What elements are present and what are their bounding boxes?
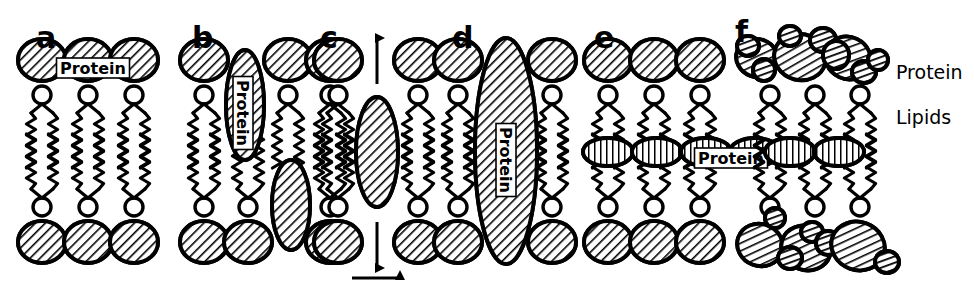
lipid-neck <box>407 104 429 113</box>
panel-d-protein-label-inner: Protein <box>496 124 516 197</box>
lipid-head-icon <box>806 86 824 104</box>
protein-cluster-blob-bottom-fill <box>875 251 899 273</box>
protein-head-bottom <box>630 221 678 263</box>
protein-head-bottom-fill <box>18 221 66 263</box>
protein-head-bottom-fill <box>528 221 576 263</box>
lipid-head-icon <box>599 198 617 216</box>
protein-head-bottom <box>434 221 482 263</box>
lipid-neck <box>804 104 826 113</box>
protein-body-midlayer-fill <box>632 138 682 166</box>
panel-a-protein-label: Protein <box>57 58 130 78</box>
protein-head-bottom-fill <box>584 221 632 263</box>
lipid-neck <box>447 104 469 113</box>
protein-head-top <box>676 39 724 81</box>
lipid-molecule <box>536 86 567 168</box>
lipid-molecule <box>72 86 103 168</box>
protein-cluster-blob-top <box>753 59 775 81</box>
lipid-molecule <box>118 134 149 216</box>
protein-cluster-blob-top-fill <box>779 26 801 46</box>
protein-head-bottom <box>18 221 66 263</box>
lipid-neck <box>759 104 781 113</box>
protein-body-midlayer <box>583 138 633 166</box>
protein-head-bottom <box>110 221 158 263</box>
lipid-head-icon <box>851 198 869 216</box>
lipid-molecule <box>26 134 57 216</box>
lipid-tail-1 <box>272 113 281 168</box>
lipid-head-icon <box>449 86 467 104</box>
protein-head-bottom-fill <box>64 221 112 263</box>
lipid-neck <box>804 189 826 198</box>
lipid-neck <box>77 104 99 113</box>
protein-body-vertical-fill <box>272 160 310 250</box>
lipid-neck <box>541 189 563 198</box>
lipid-head-icon <box>409 86 427 104</box>
protein-cluster-blob-bottom-fill <box>765 208 785 228</box>
protein-head-bottom <box>528 221 576 263</box>
lipid-head-icon <box>645 198 663 216</box>
protein-cluster-blob-bottom <box>778 247 802 269</box>
protein-body-midlayer <box>765 138 815 166</box>
lipid-molecule <box>402 86 433 168</box>
panel-letter-c: c <box>320 20 338 55</box>
panel-b-protein-label-text: Protein <box>233 80 252 146</box>
protein-head-top <box>630 39 678 81</box>
lipid-head-icon <box>851 86 869 104</box>
protein-cluster-blob-top <box>823 41 849 69</box>
protein-head-top-fill <box>528 39 576 81</box>
protein-head-bottom-fill <box>180 221 228 263</box>
protein-head-bottom-fill <box>314 221 362 263</box>
protein-head-top-fill <box>630 39 678 81</box>
lipid-head-icon <box>329 198 347 216</box>
lipid-head-icon <box>599 86 617 104</box>
side-label-lipids: Lipids <box>896 106 951 128</box>
protein-head-bottom-fill <box>434 221 482 263</box>
protein-cluster-blob-top-fill <box>868 50 888 70</box>
lipid-neck <box>541 104 563 113</box>
lipid-neck <box>123 189 145 198</box>
lipid-molecule <box>72 134 103 216</box>
protein-body-midlayer <box>632 138 682 166</box>
lipid-head-icon <box>645 86 663 104</box>
protein-body-vertical-fill <box>356 97 398 207</box>
lipid-neck <box>643 189 665 198</box>
protein-head-bottom-fill <box>676 221 724 263</box>
protein-head-bottom-fill <box>224 221 272 263</box>
side-label-protein: Protein <box>896 61 963 83</box>
lipid-molecule <box>118 86 149 168</box>
lipid-head-icon <box>691 86 709 104</box>
lipid-neck <box>193 189 215 198</box>
panel-letter-f: f <box>735 14 749 49</box>
panel-d-protein-label: Protein <box>496 124 516 197</box>
panel-b-protein-label: Protein <box>233 77 253 150</box>
lipid-neck <box>689 104 711 113</box>
panel-d-protein-label-text: Protein <box>496 127 515 193</box>
panel-d: Proteind <box>434 20 576 264</box>
protein-body-midlayer <box>814 138 864 166</box>
protein-cluster-blob-top-fill <box>753 59 775 81</box>
protein-head-bottom <box>224 221 272 263</box>
lipid-neck <box>77 189 99 198</box>
lipid-neck <box>31 104 53 113</box>
lipid-head-icon <box>279 86 297 104</box>
lipid-head-icon <box>329 86 347 104</box>
protein-head-bottom <box>676 221 724 263</box>
protein-head-top <box>528 39 576 81</box>
protein-cluster-blob-top <box>868 50 888 70</box>
protein-head-bottom <box>314 221 362 263</box>
panel-letter-b: b <box>192 20 213 55</box>
protein-cluster-blob-bottom-fill <box>778 247 802 269</box>
lipid-neck <box>849 104 871 113</box>
lipid-neck <box>643 104 665 113</box>
membrane-models-figure: ProteinaProteinbcProteindProteinef Prote… <box>0 0 974 292</box>
lipid-neck <box>31 189 53 198</box>
lipid-head-icon <box>125 86 143 104</box>
lipid-head-icon <box>761 86 779 104</box>
lipid-head-icon <box>543 86 561 104</box>
protein-head-top-fill <box>676 39 724 81</box>
lipid-neck <box>849 189 871 198</box>
lipid-neck <box>597 189 619 198</box>
protein-head-bottom-fill <box>110 221 158 263</box>
membrane-diagram-canvas: ProteinaProteinbcProteindProteinef Prote… <box>0 0 974 292</box>
lipid-head-icon <box>195 86 213 104</box>
panel-letter-a: a <box>36 20 56 55</box>
